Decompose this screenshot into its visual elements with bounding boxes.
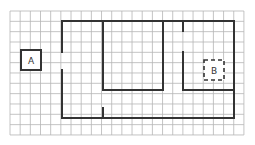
box-b: B <box>204 60 224 80</box>
box-b-label: B <box>211 66 217 76</box>
box-a-label: A <box>28 56 35 66</box>
box-a: A <box>21 50 41 70</box>
grid-maze-diagram: A B <box>0 0 255 145</box>
